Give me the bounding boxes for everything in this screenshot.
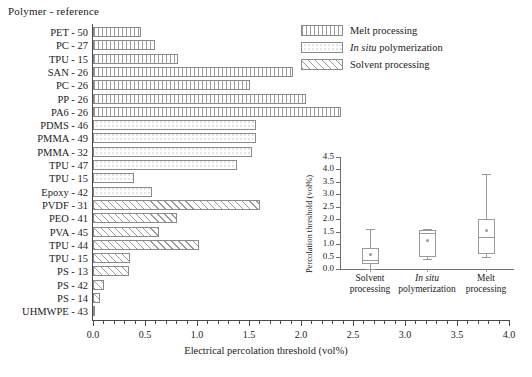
inset-x-tick-label-line2: processing <box>466 284 507 295</box>
bar-melt <box>93 27 141 37</box>
x-tick-label: 3.0 <box>399 329 412 340</box>
inset-y-tick <box>336 269 340 270</box>
category-label: TPU - 44 <box>0 239 88 252</box>
bar-solvent <box>93 240 199 250</box>
x-tick-label: 1.5 <box>243 329 256 340</box>
box-iqr-rect <box>362 248 379 264</box>
inset-x-tick-label: Meltprocessing <box>466 273 507 295</box>
inset-box-plot: Percolation threshold (vol%) 0.00.51.01.… <box>296 151 520 295</box>
box-whisker-cap-lower <box>423 259 432 260</box>
x-tick-major <box>197 320 198 326</box>
x-tick-minor <box>488 320 489 324</box>
box-whisker-cap-lower <box>482 257 491 258</box>
bar-solvent <box>93 306 95 316</box>
inset-y-tick <box>336 194 340 195</box>
legend-swatch-melt-icon <box>301 25 343 36</box>
inset-y-tick-label: 4.0 <box>306 163 334 173</box>
x-tick-minor <box>447 320 448 324</box>
category-label: PS - 42 <box>0 279 88 292</box>
inset-x-tick-label-line1: In situ <box>415 273 439 283</box>
x-tick-minor <box>415 320 416 324</box>
inset-y-tick <box>336 232 340 233</box>
x-tick-major <box>405 320 406 326</box>
bar-solvent <box>93 213 177 223</box>
bar-insitu <box>93 133 256 143</box>
inset-y-tick-label: 0.0 <box>306 263 334 273</box>
bar-solvent <box>93 280 104 290</box>
inset-x-tick-label-line2: polymerization <box>398 284 456 295</box>
bar-melt <box>93 54 178 64</box>
x-tick-minor <box>239 320 240 324</box>
bar-solvent <box>93 293 100 303</box>
x-tick-minor <box>218 320 219 324</box>
inset-x-tick-label-line2: processing <box>350 284 391 295</box>
inset-y-tick <box>336 157 340 158</box>
x-tick-minor <box>155 320 156 324</box>
inset-y-tick-label: 3.5 <box>306 176 334 186</box>
x-tick-label: 4.0 <box>503 329 516 340</box>
x-tick-minor <box>166 320 167 324</box>
x-tick-minor <box>135 320 136 324</box>
bar-melt <box>93 67 293 77</box>
bar-insitu <box>93 120 256 130</box>
x-axis-title: Electrical percolation threshold (vol%) <box>0 345 532 356</box>
category-label: Epoxy - 42 <box>0 186 88 199</box>
legend-label-insitu-rest: polymerization <box>377 42 443 53</box>
box-median-line <box>478 237 495 238</box>
inset-y-tick <box>336 257 340 258</box>
legend-swatch-insitu-icon <box>301 42 343 53</box>
legend-label-melt: Melt processing <box>350 25 417 36</box>
legend-label-insitu-italic: In situ <box>350 42 377 53</box>
inset-y-tick <box>336 207 340 208</box>
legend-item-insitu: In situ polymerization <box>301 39 443 55</box>
x-tick-label: 0.0 <box>87 329 100 340</box>
x-tick-major <box>457 320 458 326</box>
category-label: SAN - 26 <box>0 66 88 79</box>
x-tick-minor <box>124 320 125 324</box>
inset-y-tick-label: 3.0 <box>306 188 334 198</box>
inset-y-tick-label: 1.0 <box>306 238 334 248</box>
legend-label-insitu: In situ polymerization <box>350 42 443 53</box>
x-tick-minor <box>311 320 312 324</box>
inset-x-tick <box>427 269 428 272</box>
inset-x-tick-label-line1: Solvent <box>355 273 384 283</box>
bar-melt <box>93 107 341 117</box>
x-tick-minor <box>426 320 427 324</box>
x-tick-minor <box>374 320 375 324</box>
category-label: PS - 14 <box>0 292 88 305</box>
x-tick-minor <box>436 320 437 324</box>
x-tick-minor <box>332 320 333 324</box>
x-tick-minor <box>228 320 229 324</box>
x-tick-major <box>145 320 146 326</box>
x-tick-label: 2.5 <box>347 329 360 340</box>
inset-y-tick-label: 4.5 <box>306 151 334 161</box>
x-tick-minor <box>499 320 500 324</box>
chart-figure: Polymer - reference PET - 50PC - 27TPU -… <box>0 0 532 377</box>
category-label: TPU - 15 <box>0 53 88 66</box>
x-tick-label: 1.0 <box>191 329 204 340</box>
category-label: PC - 26 <box>0 79 88 92</box>
inset-x-tick-label-line1: Melt <box>477 273 495 283</box>
bar-melt <box>93 94 306 104</box>
x-tick-minor <box>207 320 208 324</box>
inset-y-tick-label: 1.5 <box>306 226 334 236</box>
bar-solvent <box>93 266 129 276</box>
legend-item-solvent: Solvent processing <box>301 56 443 72</box>
x-tick-label: 2.0 <box>295 329 308 340</box>
x-tick-minor <box>384 320 385 324</box>
bar-melt <box>93 80 250 90</box>
legend-label-solvent: Solvent processing <box>350 59 430 70</box>
x-tick-minor <box>363 320 364 324</box>
inset-y-tick-label: 0.5 <box>306 251 334 261</box>
bar-solvent <box>93 227 159 237</box>
x-tick-minor <box>478 320 479 324</box>
x-tick-minor <box>291 320 292 324</box>
box-mean-marker <box>369 253 372 256</box>
inset-x-tick-label: Solventprocessing <box>350 273 391 295</box>
x-tick-major <box>249 320 250 326</box>
bar-insitu <box>93 173 134 183</box>
bar-solvent <box>93 200 260 210</box>
category-label: PVDF - 31 <box>0 199 88 212</box>
legend-item-melt: Melt processing <box>301 22 443 38</box>
bar-insitu <box>93 187 152 197</box>
